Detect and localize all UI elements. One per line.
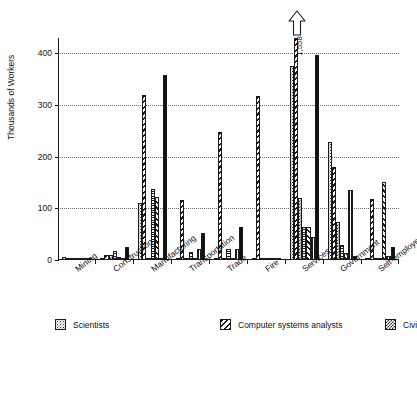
legend-item[interactable]: Computer systems analysts: [220, 319, 385, 330]
clipped-bar-annotation: 1,558: [286, 8, 304, 38]
legend-item[interactable]: Scientists: [55, 319, 220, 330]
bar-group: [172, 38, 210, 260]
y-tick-mark: [55, 260, 59, 261]
y-tick-label: 300: [38, 100, 52, 110]
bar: [315, 55, 319, 260]
up-arrow-icon: [288, 10, 306, 36]
dots-swatch: [55, 319, 66, 330]
legend-label: Scientists: [73, 320, 109, 330]
legend: ScientistsComputer systems analystsCivil…: [55, 316, 385, 334]
legend-label: Civil engineers: [403, 320, 417, 330]
y-tick-label: 400: [38, 48, 52, 58]
y-tick-label: 0: [47, 255, 52, 265]
plot-area: 0100200300400 1,558: [58, 38, 399, 260]
diagonal-backslash-swatch: [220, 319, 231, 330]
bar: [256, 96, 260, 260]
bar: [382, 182, 386, 260]
bar: [155, 197, 159, 260]
bar-chart: Thousands of Workers 0100200300400 1,558…: [0, 0, 417, 400]
bar-group: [58, 38, 96, 260]
bar-group: [323, 38, 361, 260]
y-axis-title: Thousands of Workers: [6, 55, 16, 140]
bar-group: [285, 38, 323, 260]
bar: [348, 190, 352, 260]
bar: [163, 75, 167, 260]
y-tick-label: 200: [38, 152, 52, 162]
bar-group: [247, 38, 285, 260]
bar-group: [210, 38, 248, 260]
y-tick-label: 100: [38, 203, 52, 213]
legend-item[interactable]: Civil engineers: [385, 319, 417, 330]
bar: [142, 95, 146, 260]
bar-group: [134, 38, 172, 260]
bar-group: [361, 38, 399, 260]
checker-swatch: [385, 319, 396, 330]
bar-group: [96, 38, 134, 260]
x-tick-mark: [285, 260, 286, 264]
legend-label: Computer systems analysts: [238, 320, 342, 330]
